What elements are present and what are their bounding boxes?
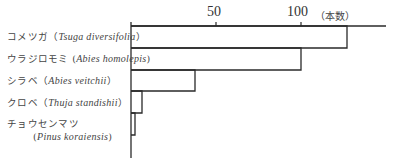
category-label-thuja: クロベ（Thuja standishii）	[7, 95, 128, 109]
label-latin: Abies veitchii	[48, 75, 106, 86]
label-jp: シラベ	[7, 75, 38, 86]
category-label-abies-homolepis: ウラジロモミ (Abies homolepis)	[7, 51, 150, 65]
bar-abies-veitchii	[131, 70, 195, 91]
label-latin: Tsuga diversifolia	[59, 31, 136, 42]
bar-abies-homolepis	[131, 48, 301, 70]
category-label-tsuga: コメツガ（Tsuga diversifolia）	[7, 29, 146, 43]
label-latin: Pinus koraiensis	[37, 131, 108, 142]
label-jp: クロベ	[7, 97, 38, 108]
label-latin: Abies homolepis	[76, 53, 146, 64]
label-jp: ウラジロモミ	[7, 53, 69, 64]
label-jp: チョウセンマツ	[7, 118, 79, 129]
label-jp: コメツガ	[7, 31, 48, 42]
bar-thuja	[131, 91, 142, 113]
label-latin: Thuja standishii	[48, 97, 118, 108]
category-label-abies-veitchii: シラベ（Abies veitchii）	[7, 73, 117, 87]
tick-label-50: 50	[207, 4, 221, 20]
tick-label-100: 100	[287, 4, 308, 20]
bar-tsuga	[131, 26, 347, 48]
category-label-pinus: チョウセンマツ (Pinus koraiensis)	[7, 116, 112, 142]
bar-chart: 50 100 （本数） コメツガ（Tsuga diversifolia） ウラジ…	[0, 0, 394, 165]
unit-label: （本数）	[315, 8, 355, 23]
